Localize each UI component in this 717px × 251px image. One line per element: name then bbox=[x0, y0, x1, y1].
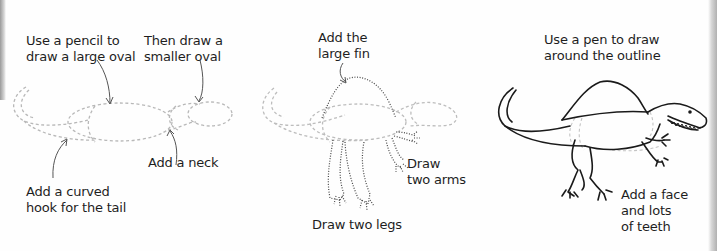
caption-outline: Use a pen to draw around the outline bbox=[544, 32, 660, 64]
step2-arrow bbox=[340, 63, 346, 83]
caption-tail: Add a curved hook for the tail bbox=[26, 184, 126, 216]
caption-small-oval: Then draw a smaller oval bbox=[144, 33, 223, 65]
caption-neck: Add a neck bbox=[148, 155, 218, 171]
step3-ink bbox=[499, 81, 707, 200]
caption-large-oval: Use a pencil to draw a large oval bbox=[26, 33, 135, 65]
book-page: Use a pencil to draw a large oval Then d… bbox=[0, 0, 717, 251]
caption-face-teeth: Add a face and lots of teeth bbox=[621, 187, 688, 235]
caption-arms: Draw two arms bbox=[407, 156, 466, 188]
step2-dotted bbox=[322, 77, 420, 210]
caption-fin: Add the large fin bbox=[318, 30, 370, 62]
step3-guides bbox=[570, 112, 660, 151]
step2-guides bbox=[263, 88, 457, 142]
step1-sketch bbox=[14, 87, 232, 142]
caption-legs: Draw two legs bbox=[312, 217, 402, 233]
